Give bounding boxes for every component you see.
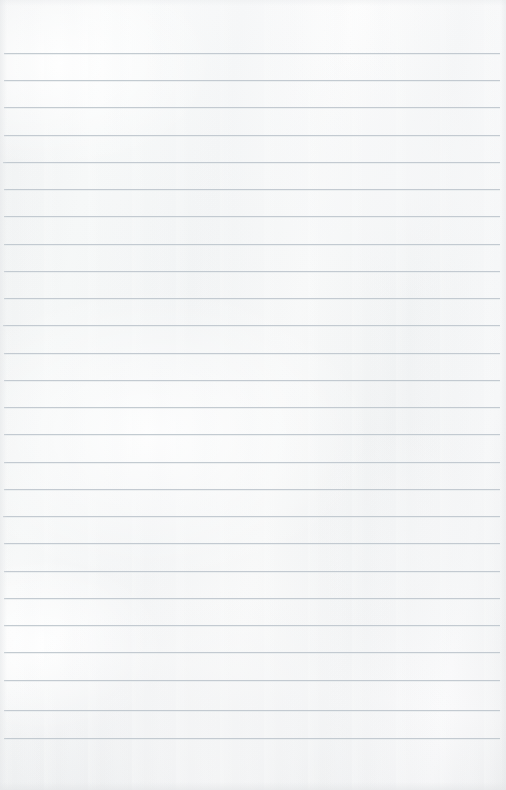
lined-paper-page	[0, 0, 506, 790]
writing-area[interactable]	[4, 53, 500, 739]
